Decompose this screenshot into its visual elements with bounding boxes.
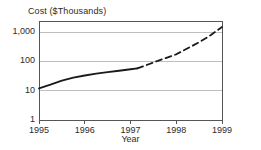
series-line-actual: [39, 68, 137, 88]
chart-figure: Cost ($Thousands) 1,000100101 1995199619…: [0, 0, 261, 150]
x-axis-title: Year: [0, 134, 261, 144]
y-tick-label-1: 1: [30, 114, 35, 124]
y-tick-label-1000: 1,000: [12, 26, 35, 36]
y-tick-label-10: 10: [25, 85, 35, 95]
series-line-projected: [137, 27, 222, 68]
y-tick-label-100: 100: [20, 55, 35, 65]
plot-frame: [39, 21, 222, 120]
